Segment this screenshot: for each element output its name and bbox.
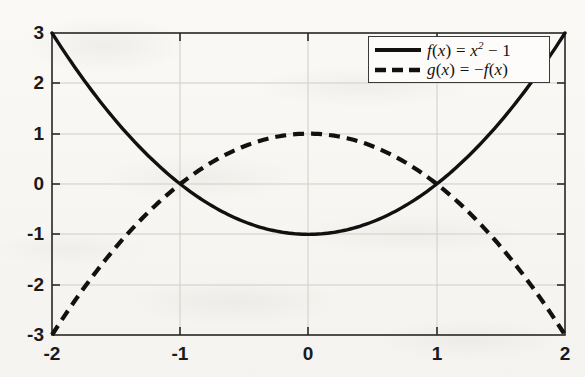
- legend-g-eq: =: [455, 60, 474, 79]
- legend-f-eq: =: [451, 40, 470, 59]
- legend-entry-f: f(x) = x2 − 1: [374, 40, 543, 60]
- figure-canvas: 3 2 1 0 -1 -2 -3 -2 -1 0 1 2 f(x) = x2 −…: [0, 0, 585, 377]
- ytick-label-1: 1: [10, 123, 44, 145]
- ytick-label-0: 0: [10, 173, 44, 195]
- xtick-label-1: 1: [432, 343, 443, 365]
- xtick-label--1: -1: [172, 343, 189, 365]
- legend-entry-g: g(x) = −f(x): [374, 60, 543, 80]
- ytick-label-3: 3: [10, 22, 44, 44]
- xtick-label-2: 2: [560, 343, 571, 365]
- legend-g-neg: −: [474, 60, 484, 79]
- legend-f-arg: x: [438, 40, 446, 59]
- legend-box: f(x) = x2 − 1 g(x) = −f(x): [368, 36, 550, 83]
- legend-g-arg: x: [442, 60, 450, 79]
- xtick-label--2: -2: [44, 343, 61, 365]
- legend-g-fn: g: [427, 60, 436, 79]
- ytick-label--2: -2: [10, 274, 44, 296]
- ytick-label-2: 2: [10, 72, 44, 94]
- ytick-label--3: -3: [10, 324, 44, 346]
- dashed-line-sample: [374, 63, 422, 77]
- legend-g-fn2: f: [484, 60, 489, 79]
- ytick-label--1: -1: [10, 223, 44, 245]
- legend-label-f: f(x) = x2 − 1: [427, 39, 511, 61]
- legend-f-tail: − 1: [484, 40, 511, 59]
- solid-line-sample: [374, 43, 422, 57]
- legend-label-g: g(x) = −f(x): [427, 60, 508, 80]
- legend-f-body: x: [470, 40, 478, 59]
- legend-g-arg2: x: [495, 60, 503, 79]
- legend-f-fn: f: [427, 40, 432, 59]
- xtick-label-0: 0: [303, 343, 314, 365]
